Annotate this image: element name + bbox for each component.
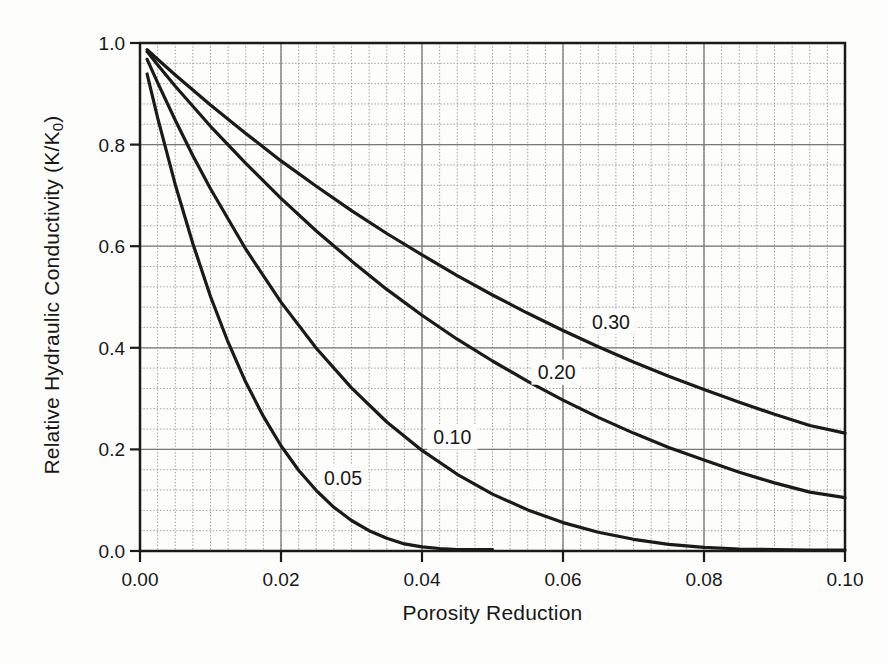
y-tick-label: 0.6 (99, 236, 125, 257)
y-tick-label: 0.2 (99, 439, 125, 460)
y-axis-title: Relative Hydraulic Conductivity (K/K0) (29, 0, 75, 605)
x-tick-label: 0.04 (404, 569, 441, 590)
curve-label-0.10: 0.10 (433, 426, 471, 448)
y-axis-title-subscript: 0 (49, 123, 66, 132)
tick-labels: 0.000.020.040.060.080.100.00.20.40.60.81… (99, 33, 864, 590)
chart-figure: 0.000.020.040.060.080.100.00.20.40.60.81… (0, 0, 889, 665)
y-tick-label: 0.4 (99, 338, 126, 359)
curve-0.20 (147, 52, 845, 498)
curve-label-0.05: 0.05 (324, 467, 362, 489)
curves (147, 50, 845, 550)
y-tick-label: 1.0 (99, 33, 125, 54)
curve-label-0.20: 0.20 (538, 361, 576, 383)
y-axis-title-text: Relative Hydraulic Conductivity (K/K (40, 131, 63, 474)
y-tick-label: 0.0 (99, 541, 125, 562)
x-tick-label: 0.02 (263, 569, 300, 590)
x-tick-label: 0.08 (686, 569, 723, 590)
x-tick-label: 0.06 (545, 569, 582, 590)
x-tick-label: 0.10 (827, 569, 864, 590)
curve-0.30 (147, 50, 845, 434)
grid-minor (140, 43, 845, 551)
curve-label-0.30: 0.30 (592, 311, 630, 333)
y-tick-label: 0.8 (99, 135, 125, 156)
curve-0.10 (147, 59, 845, 550)
line-chart-canvas: 0.000.020.040.060.080.100.00.20.40.60.81… (0, 0, 889, 665)
x-axis-title: Porosity Reduction (292, 601, 693, 625)
axis-ticks (130, 43, 845, 562)
x-tick-label: 0.00 (122, 569, 159, 590)
y-axis-title-close: ) (40, 115, 63, 122)
